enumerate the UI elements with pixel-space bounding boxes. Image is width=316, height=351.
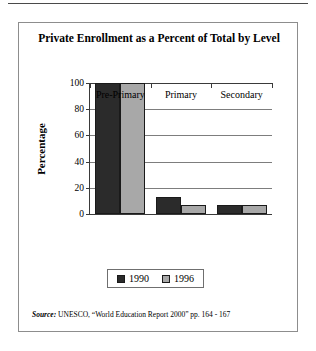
chart-legend: 19901996 bbox=[107, 269, 204, 288]
y-axis-tick-label: 20 bbox=[75, 183, 85, 193]
y-axis-title: Percentage bbox=[35, 104, 47, 194]
x-axis-category-label: Primary bbox=[165, 89, 197, 100]
source-text: UNESCO, “World Education Report 2000” pp… bbox=[58, 310, 230, 319]
plot-area: 020406080100 Pre-PrimaryPrimarySecondary bbox=[89, 83, 272, 215]
legend-item: 1996 bbox=[162, 273, 194, 284]
y-axis-tick-label: 80 bbox=[75, 104, 85, 114]
bar-group bbox=[95, 83, 145, 214]
bar-group bbox=[156, 83, 206, 214]
legend-swatch-icon bbox=[162, 275, 170, 283]
y-axis-tick-label: 0 bbox=[79, 209, 84, 219]
source-note: Source: UNESCO, “World Education Report … bbox=[32, 310, 230, 319]
x-axis-tick-mark bbox=[272, 83, 273, 88]
bars-layer bbox=[90, 83, 272, 214]
x-axis-category-label: Secondary bbox=[221, 89, 263, 100]
bar bbox=[242, 205, 267, 214]
legend-item: 1990 bbox=[117, 273, 149, 284]
bar bbox=[181, 205, 206, 214]
chart-figure-container: Private Enrollment as a Percent of Total… bbox=[18, 22, 298, 332]
y-axis-tick-label: 60 bbox=[75, 130, 85, 140]
bar bbox=[217, 205, 242, 214]
legend-label: 1996 bbox=[174, 273, 194, 284]
legend-swatch-icon bbox=[117, 275, 125, 283]
bar bbox=[156, 197, 181, 214]
x-axis-tick-mark bbox=[211, 83, 212, 88]
bar bbox=[95, 83, 120, 214]
x-axis-category-label: Pre-Primary bbox=[96, 89, 145, 100]
y-axis-tick-label: 100 bbox=[70, 78, 84, 88]
bar-group bbox=[217, 83, 267, 214]
x-axis-tick-mark bbox=[90, 83, 91, 88]
top-divider-rule bbox=[8, 3, 308, 4]
y-axis-tick-mark bbox=[86, 214, 90, 215]
legend-label: 1990 bbox=[129, 273, 149, 284]
bar bbox=[120, 83, 145, 214]
y-axis-tick-label: 40 bbox=[75, 157, 85, 167]
source-label: Source: bbox=[32, 310, 56, 319]
x-axis-tick-mark bbox=[151, 83, 152, 88]
